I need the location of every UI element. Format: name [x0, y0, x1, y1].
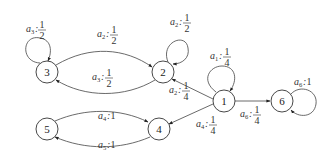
edge-label-5-to-4: a 4 : 1 — [98, 110, 116, 122]
svg-text::: : — [205, 118, 208, 129]
edge-3-to-2 — [56, 51, 152, 67]
svg-text:2: 2 — [175, 21, 178, 28]
svg-text:1: 1 — [111, 110, 116, 121]
svg-text:2: 2 — [174, 89, 177, 96]
node-5: 5 — [36, 118, 58, 140]
edge-2-to-3 — [56, 80, 155, 94]
svg-text:2: 2 — [40, 30, 45, 41]
svg-text:2: 2 — [185, 23, 190, 34]
svg-text:1: 1 — [215, 55, 218, 62]
edge-label-2-to-3: a 3 : 1 2 — [92, 67, 113, 89]
node-2: 2 — [152, 61, 174, 83]
svg-text:4: 4 — [255, 115, 260, 126]
svg-text:1: 1 — [40, 19, 45, 30]
svg-text:2: 2 — [102, 33, 105, 40]
edge-label-1-to-2: a 2 : 1 4 — [169, 80, 190, 102]
node-5-label: 5 — [44, 123, 50, 135]
node-4: 4 — [148, 118, 170, 140]
svg-text::: : — [249, 108, 252, 119]
svg-text:1: 1 — [107, 67, 112, 78]
svg-text::: : — [178, 84, 181, 95]
edge-label-4-to-5: a 5 : 1 — [98, 139, 116, 151]
node-3: 3 — [36, 61, 58, 83]
edge-6-self-loop — [291, 89, 316, 115]
node-6-label: 6 — [279, 95, 285, 107]
svg-text::: : — [35, 23, 38, 34]
svg-text:1: 1 — [225, 46, 230, 57]
edge-2-self-loop — [166, 40, 188, 64]
svg-text:4: 4 — [184, 91, 189, 102]
edge-label-6-self: a 6 : 1 — [294, 76, 312, 88]
node-6: 6 — [271, 90, 293, 112]
svg-text:1: 1 — [255, 104, 260, 115]
node-1-label: 1 — [221, 95, 227, 107]
svg-text:1: 1 — [307, 76, 312, 87]
svg-text::: : — [101, 71, 104, 82]
svg-text::: : — [219, 50, 222, 61]
svg-text:4: 4 — [225, 57, 230, 68]
edge-label-2-self: a 2 : 1 2 — [170, 12, 191, 34]
edge-3-self-loop — [26, 38, 51, 63]
node-3-label: 3 — [44, 66, 50, 78]
svg-text:2: 2 — [112, 35, 117, 46]
edge-label-1-to-4: a 4 : 1 4 — [196, 114, 217, 136]
edge-1-self-loop — [208, 66, 235, 92]
svg-text:4: 4 — [211, 125, 216, 136]
node-4-label: 4 — [156, 123, 162, 135]
svg-text::: : — [179, 16, 182, 27]
node-1: 1 — [213, 90, 235, 112]
svg-text:1: 1 — [111, 139, 116, 150]
svg-text:3: 3 — [31, 28, 34, 35]
svg-text:1: 1 — [112, 24, 117, 35]
svg-text:1: 1 — [211, 114, 216, 125]
svg-text:5: 5 — [103, 144, 106, 151]
svg-text::: : — [106, 28, 109, 39]
svg-text:1: 1 — [184, 80, 189, 91]
edge-label-3-to-2: a 2 : 1 2 — [97, 24, 118, 46]
svg-text:2: 2 — [107, 78, 112, 89]
state-transition-diagram: 3 2 1 6 5 4 a 3 : 1 2 a 2 : 1 2 a — [0, 0, 332, 162]
edge-label-1-self: a 1 : 1 4 — [210, 46, 231, 68]
node-2-label: 2 — [160, 66, 166, 78]
svg-text:1: 1 — [185, 12, 190, 23]
svg-text:3: 3 — [97, 76, 100, 83]
edge-label-1-to-6: a 6 : 1 4 — [240, 104, 261, 126]
